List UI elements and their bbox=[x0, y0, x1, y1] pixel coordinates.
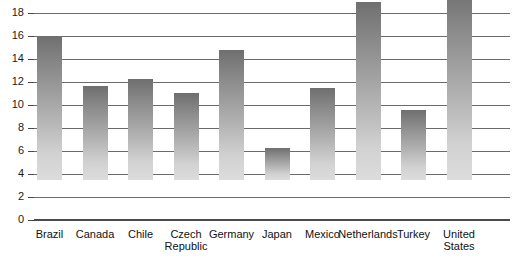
bar bbox=[37, 36, 62, 180]
bars-group bbox=[0, 0, 513, 226]
bar bbox=[219, 50, 244, 180]
bar bbox=[128, 79, 153, 180]
x-axis-category-label: United States bbox=[429, 228, 489, 252]
bar bbox=[83, 86, 108, 180]
bar bbox=[356, 2, 381, 180]
bar bbox=[310, 88, 335, 180]
bar bbox=[447, 0, 472, 180]
bar-chart: 024681012141618 BrazilCanadaChileCzech R… bbox=[0, 0, 513, 266]
bar bbox=[401, 110, 426, 180]
bar bbox=[174, 93, 199, 180]
bar bbox=[265, 148, 290, 180]
x-axis-labels-group: BrazilCanadaChileCzech RepublicGermanyJa… bbox=[0, 224, 513, 266]
